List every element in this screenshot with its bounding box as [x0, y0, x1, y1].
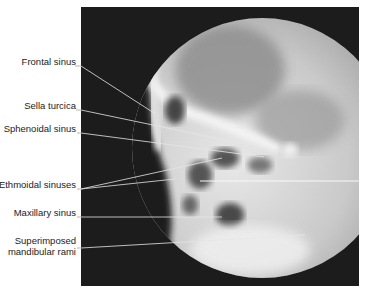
label-ethmoidal-sinuses: Ethmoidal sinuses — [0, 179, 76, 190]
label-maxillary-sinus: Maxillary sinus — [14, 207, 76, 218]
label-sphenoidal-sinus: Sphenoidal sinus — [4, 123, 76, 134]
label-frontal-sinus: Frontal sinus — [22, 56, 76, 67]
label-mandibular-rami: mandibular rami — [8, 246, 76, 257]
label-sella-turcica: Sella turcica — [24, 100, 76, 111]
label-superimposed: Superimposed — [15, 235, 76, 246]
